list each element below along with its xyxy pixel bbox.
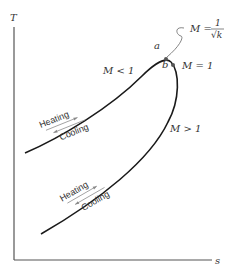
lower-heating-arrowhead — [93, 185, 98, 190]
m-sqrtk-den: √k — [211, 30, 222, 40]
upper-cooling-arrowhead — [53, 130, 58, 134]
point-b-marker — [171, 63, 175, 67]
lower-cooling-arrowhead — [74, 201, 79, 206]
fanno-rayleigh-ts-diagram: T s a b M = 1 √k M = 1 M < 1 M > 1 Heati… — [0, 0, 243, 272]
point-a-label: a — [154, 40, 160, 51]
upper-heating-arrowhead — [73, 116, 78, 120]
supersonic-region-label: M > 1 — [169, 123, 201, 134]
point-b-label: b — [162, 59, 168, 70]
m-equals-1: M = 1 — [181, 60, 213, 71]
t-axis-label: T — [10, 12, 18, 23]
subsonic-region-label: M < 1 — [102, 65, 134, 76]
annotation-hook — [167, 28, 184, 57]
subsonic-curve — [25, 60, 171, 153]
supersonic-curve — [41, 62, 177, 234]
m-sqrtk-num: 1 — [215, 18, 221, 28]
s-axis-label: s — [215, 255, 220, 266]
m-sqrtk-lhs: M = — [189, 23, 212, 34]
